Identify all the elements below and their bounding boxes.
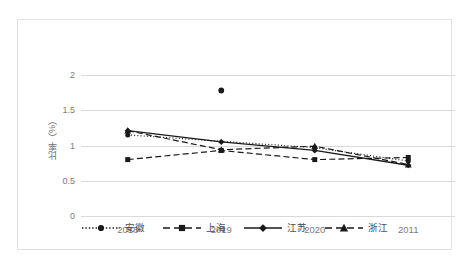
legend-marker-diamond-icon xyxy=(243,222,283,234)
y-tick-label: 0 xyxy=(70,212,75,221)
legend-label: 安徽 xyxy=(125,223,145,233)
y-tick-label: 1.5 xyxy=(62,106,75,115)
y-tick-label: 2 xyxy=(70,71,75,80)
legend-item-安徽[interactable]: 安徽 xyxy=(81,222,145,234)
data-point-square xyxy=(179,225,185,231)
chart-legend: 安徽上海江苏浙江 xyxy=(17,222,452,234)
legend-label: 上海 xyxy=(206,223,226,233)
data-point-circle xyxy=(218,88,224,94)
data-point-square xyxy=(125,157,130,162)
legend-marker-triangle-icon xyxy=(324,222,364,234)
data-point-square xyxy=(406,155,411,160)
gridline-0 xyxy=(81,216,455,217)
legend-label: 江苏 xyxy=(287,223,307,233)
legend-item-江苏[interactable]: 江苏 xyxy=(243,222,307,234)
data-point-diamond xyxy=(218,139,224,145)
series-上海 xyxy=(125,148,411,162)
series-layer xyxy=(81,75,455,216)
legend-item-浙江[interactable]: 浙江 xyxy=(324,222,388,234)
series-安徽 xyxy=(125,88,411,164)
data-point-diamond xyxy=(259,224,267,232)
legend-marker-square-icon xyxy=(162,222,202,234)
y-tick-label: 0.5 xyxy=(62,176,75,185)
y-tick-label: 1 xyxy=(70,141,75,150)
plot-area: 00.511.52 2018201920202011 xyxy=(81,75,455,216)
y-axis-title: 比率（%） xyxy=(48,116,60,160)
data-point-circle xyxy=(98,225,104,231)
chart-frame: 比率（%） 00.511.52 2018201920202011 xyxy=(17,19,452,250)
series-浙江 xyxy=(124,127,411,167)
legend-label: 浙江 xyxy=(368,223,388,233)
legend-marker-circle-icon xyxy=(81,222,121,234)
chart-figure: 比率（%） 00.511.52 2018201920202011 安徽上海江苏浙… xyxy=(0,0,470,274)
legend-item-上海[interactable]: 上海 xyxy=(162,222,226,234)
data-point-square xyxy=(312,157,317,162)
